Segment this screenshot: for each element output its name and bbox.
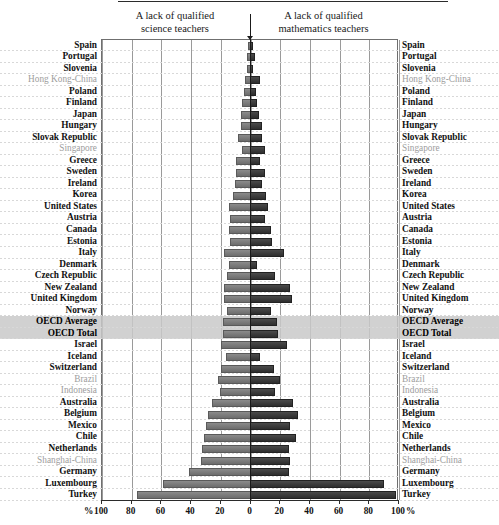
country-label-l-norway: Norway <box>66 305 98 315</box>
country-label-l-netherlands: Netherlands <box>48 443 97 453</box>
tick-right-20 <box>279 500 280 504</box>
tick-left-80 <box>131 500 132 504</box>
bar-science-belgium <box>208 411 252 419</box>
bar-mathematics-netherlands <box>250 445 289 453</box>
bar-mathematics-estonia <box>250 238 273 246</box>
country-label-l-brazil: Brazil <box>74 374 97 384</box>
bar-mathematics-japan <box>250 111 259 119</box>
country-label-l-hungary: Hungary <box>61 120 97 130</box>
country-label-l-chile: Chile <box>76 431 97 441</box>
bar-mathematics-italy <box>250 249 285 257</box>
bar-science-netherlands <box>202 445 252 453</box>
tick-right-40 <box>309 500 310 504</box>
country-label-l-canada: Canada <box>66 224 97 234</box>
country-label-r-sweden: Sweden <box>402 166 432 176</box>
country-label-l-hong-kong-china: Hong Kong-China <box>28 74 97 84</box>
bar-science-indonesia <box>220 388 252 396</box>
bar-mathematics-oecd-average <box>250 318 277 326</box>
country-label-l-oecd-total: OECD Total <box>48 328 97 338</box>
bar-science-united-states <box>229 203 252 211</box>
country-label-r-mexico: Mexico <box>402 420 431 430</box>
country-label-l-portugal: Portugal <box>62 51 97 61</box>
bar-mathematics-ireland <box>250 180 262 188</box>
country-label-r-oecd-total: OECD Total <box>402 328 451 338</box>
bar-science-italy <box>224 249 251 257</box>
country-label-r-united-kingdom: United Kingdom <box>402 293 468 303</box>
right-panel-title-line1: A lack of qualified <box>249 10 398 23</box>
bar-mathematics-united-kingdom <box>250 295 292 303</box>
bar-science-mexico <box>206 422 251 430</box>
bar-science-denmark <box>229 261 252 269</box>
country-label-l-mexico: Mexico <box>68 420 97 430</box>
top-rule <box>118 1 448 2</box>
tick-left-60 <box>160 500 161 504</box>
country-label-l-israel: Israel <box>74 339 97 349</box>
country-label-l-sweden: Sweden <box>67 166 97 176</box>
bar-mathematics-austria <box>250 215 265 223</box>
bar-science-oecd-total <box>223 330 252 338</box>
country-label-l-italy: Italy <box>78 247 97 257</box>
left-panel-title-line1: A lack of qualified <box>101 10 249 23</box>
country-label-r-netherlands: Netherlands <box>402 443 451 453</box>
country-label-r-austria: Austria <box>402 212 432 222</box>
country-label-l-iceland: Iceland <box>68 351 97 361</box>
bar-mathematics-chile <box>250 434 297 442</box>
country-label-r-spain: Spain <box>402 40 425 50</box>
bar-mathematics-united-states <box>250 203 268 211</box>
bar-mathematics-new-zealand <box>250 284 291 292</box>
bar-mathematics-mexico <box>250 422 291 430</box>
bar-mathematics-hong-kong-china <box>250 76 261 84</box>
bar-science-iceland <box>226 353 252 361</box>
tick-left-0 <box>250 500 251 504</box>
country-label-l-switzerland: Switzerland <box>49 362 97 372</box>
country-label-r-japan: Japan <box>402 109 426 119</box>
country-label-r-slovak-republic: Slovak Republic <box>402 132 467 142</box>
bar-mathematics-turkey <box>250 491 396 499</box>
country-label-r-brazil: Brazil <box>402 374 425 384</box>
country-label-r-slovenia: Slovenia <box>402 63 436 73</box>
country-label-r-australia: Australia <box>402 397 439 407</box>
bar-mathematics-singapore <box>250 146 265 154</box>
axis-unit-left: % <box>84 506 93 516</box>
bar-mathematics-denmark <box>250 261 258 269</box>
tick-left-40 <box>190 500 191 504</box>
country-label-l-czech-republic: Czech Republic <box>35 270 97 280</box>
tick-right-100 <box>398 500 399 504</box>
country-label-r-united-states: United States <box>402 201 455 211</box>
bar-mathematics-iceland <box>250 353 261 361</box>
bar-science-germany <box>189 468 252 476</box>
bar-science-estonia <box>230 238 251 246</box>
bar-mathematics-australia <box>250 399 294 407</box>
country-label-l-singapore: Singapore <box>59 143 97 153</box>
country-label-r-iceland: Iceland <box>402 351 431 361</box>
bar-mathematics-czech-republic <box>250 272 276 280</box>
right-panel-title: A lack of qualified mathematics teachers <box>249 10 398 35</box>
country-label-l-austria: Austria <box>67 212 97 222</box>
country-label-r-chile: Chile <box>402 431 423 441</box>
bar-science-shanghai-china <box>201 457 252 465</box>
country-label-l-greece: Greece <box>69 155 97 165</box>
bar-mathematics-germany <box>250 468 289 476</box>
bar-mathematics-brazil <box>250 376 280 384</box>
bar-science-canada <box>229 226 252 234</box>
country-label-l-turkey: Turkey <box>68 489 97 499</box>
country-label-l-belgium: Belgium <box>64 408 97 418</box>
tick-left-100 <box>101 500 102 504</box>
bar-science-chile <box>204 434 252 442</box>
country-label-l-germany: Germany <box>59 466 97 476</box>
country-label-r-hong-kong-china: Hong Kong-China <box>402 74 471 84</box>
country-label-r-greece: Greece <box>402 155 430 165</box>
bar-science-israel <box>221 341 251 349</box>
bar-mathematics-sweden <box>250 169 265 177</box>
country-label-l-finland: Finland <box>66 97 97 107</box>
country-label-r-new-zealand: New Zealand <box>402 282 454 292</box>
bar-science-united-kingdom <box>224 295 251 303</box>
bar-science-switzerland <box>221 365 251 373</box>
right-panel-title-line2: mathematics teachers <box>249 23 398 36</box>
country-label-r-denmark: Denmark <box>402 259 440 269</box>
bar-mathematics-norway <box>250 307 271 315</box>
bar-mathematics-hungary <box>250 122 262 130</box>
bar-mathematics-finland <box>250 99 258 107</box>
bar-science-norway <box>227 307 251 315</box>
tick-right-60 <box>339 500 340 504</box>
